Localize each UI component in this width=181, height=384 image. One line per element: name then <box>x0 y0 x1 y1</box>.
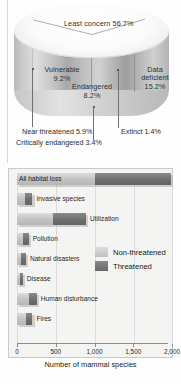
callout-label-extinct: Extinct 1.4% <box>121 128 161 137</box>
bar-row <box>17 313 33 325</box>
bar-row <box>17 293 37 305</box>
bar-category-label: Human disturbance <box>41 293 98 305</box>
bar-segment-threatened <box>23 233 29 245</box>
x-tick-label: 500 <box>50 348 61 355</box>
bar-category-label: Fires <box>37 313 52 325</box>
bar-segment-threatened <box>95 173 171 185</box>
x-tick-label: 1,500 <box>125 348 141 355</box>
callout-label-near-threatened: Near threatened 5.9% <box>22 128 92 137</box>
pie-slice-label-data-deficient-value: 15.2% <box>145 82 166 91</box>
pie-slice-label-endangered: Endangered 8.2% <box>66 83 118 100</box>
bar-segment-non-threatened <box>17 193 25 205</box>
bar-category-label: Utilization <box>90 213 119 225</box>
bar-category-label: All habitat loss <box>19 173 62 185</box>
bar-row <box>17 253 26 265</box>
callout-line-critically-endangered <box>93 108 94 140</box>
bar-category-label: Invasive species <box>37 193 85 205</box>
bar-segment-threatened <box>53 213 86 225</box>
gridline-2000 <box>172 173 173 343</box>
x-axis-title: Number of mammal species <box>8 360 173 369</box>
chart-legend: Non-threatened Threatened <box>95 247 166 275</box>
legend-swatch-non-threatened <box>95 247 108 257</box>
bar-category-label: Natural disasters <box>30 253 79 265</box>
bar-segment-non-threatened <box>17 313 26 325</box>
bar-plot-area: All habitat lossInvasive speciesUtilizat… <box>9 169 172 357</box>
bar-segment-threatened <box>25 193 32 205</box>
x-tick-mark <box>172 344 173 347</box>
x-tick-label: 2,000 <box>164 348 180 355</box>
bar-segment-non-threatened <box>17 293 29 305</box>
bar-category-label: Pollution <box>33 233 58 245</box>
x-tick-mark <box>133 344 134 347</box>
pie-3d-stage: Least concern 56.7% Vulnerable 9.2% Enda… <box>14 4 169 122</box>
bar-segment-non-threatened <box>17 213 53 225</box>
bar-segment-threatened <box>21 253 26 265</box>
legend-item-threatened: Threatened <box>95 261 166 271</box>
pie-slice-label-vulnerable-value: 9.2% <box>54 74 71 83</box>
pie-slice-label-endangered-value: 8.2% <box>84 91 101 100</box>
callout-label-critically-endangered: Critically endangered 3.4% <box>16 139 102 148</box>
legend-label-threatened: Threatened <box>113 262 152 271</box>
bar-segment-threatened <box>29 293 37 305</box>
bar-segment-threatened <box>26 313 33 325</box>
pie-slice-label-least-concern: Least concern 56.7% <box>64 20 133 29</box>
bar-row <box>17 233 29 245</box>
pie-chart-panel: Least concern 56.7% Vulnerable 9.2% Enda… <box>0 0 181 163</box>
legend-label-non-threatened: Non-threatened <box>113 248 166 257</box>
bar-row <box>17 273 23 285</box>
callout-line-near-threatened <box>32 70 33 127</box>
x-tick-mark <box>95 344 96 347</box>
pie-slice-label-data-deficient: Data deficient 15.2% <box>135 66 175 91</box>
pie-slice-label-vulnerable: Vulnerable 9.2% <box>40 66 84 83</box>
bar-row <box>17 213 86 225</box>
x-axis-line <box>17 343 168 344</box>
legend-item-non-threatened: Non-threatened <box>95 247 166 257</box>
bar-row <box>17 193 33 205</box>
x-tick-label: 1,000 <box>87 348 103 355</box>
bar-segment-threatened <box>20 273 23 285</box>
legend-swatch-threatened <box>95 261 108 271</box>
figure-root: Least concern 56.7% Vulnerable 9.2% Enda… <box>0 0 181 384</box>
callout-line-extinct <box>118 71 119 128</box>
x-tick-mark <box>56 344 57 347</box>
bar-category-label: Disease <box>27 273 51 285</box>
pie-cylinder-top-face <box>14 4 169 58</box>
bar-chart-panel: All habitat lossInvasive speciesUtilizat… <box>8 168 173 358</box>
x-tick-label: 0 <box>15 348 19 355</box>
x-tick-mark <box>17 344 18 347</box>
